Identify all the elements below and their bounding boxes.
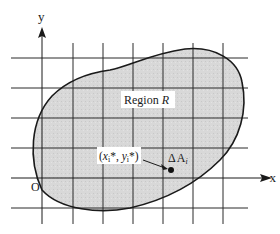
region-r-shape bbox=[33, 49, 244, 211]
x-axis-label: x bbox=[270, 170, 277, 185]
sample-point-label: (xi*, yi*) bbox=[99, 150, 139, 164]
sample-point-dot bbox=[168, 167, 174, 173]
origin-label: O bbox=[31, 180, 40, 194]
area-element-label: ΔAi bbox=[168, 151, 188, 166]
double-integral-region-diagram: y x O Region R (xi*, yi*) ΔAi bbox=[0, 0, 280, 234]
region-label: Region R bbox=[124, 93, 170, 107]
y-axis-label: y bbox=[38, 9, 45, 24]
